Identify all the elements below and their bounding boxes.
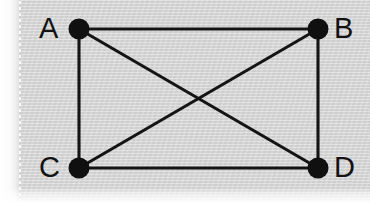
vertex-node-d: [308, 158, 329, 179]
vertex-label-b: B: [334, 14, 353, 43]
vertex-node-c: [69, 158, 90, 179]
vertex-node-a: [69, 19, 90, 40]
vertex-label-c: C: [39, 153, 60, 182]
vertex-label-d: D: [334, 153, 355, 182]
vertex-label-a: A: [39, 14, 58, 43]
graph-figure: A B C D: [0, 0, 370, 202]
vertex-node-b: [308, 19, 329, 40]
edge-group: [79, 29, 318, 168]
